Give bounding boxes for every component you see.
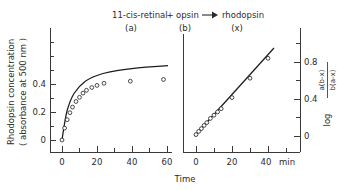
right-y-axis-title: log a(b-x) b(a-x) xyxy=(318,62,337,126)
left-y-tick-label-0: 0 xyxy=(41,135,46,145)
right-x-major-ticks xyxy=(196,146,268,152)
chart-svg: 11-cis-retinal + opsin rhodopsin (a) (b)… xyxy=(0,0,338,190)
equation-plus-sign: + xyxy=(166,10,173,20)
left-x-tick-label-60: 60 xyxy=(162,157,173,167)
left-x-tick-label-20: 20 xyxy=(92,157,103,167)
equation-label-a: (a) xyxy=(125,23,137,33)
left-y-tick-label-04: 0.4 xyxy=(32,79,46,89)
right-x-axis-unit: min xyxy=(279,157,295,167)
left-y-tick-label-02: 0.2 xyxy=(32,107,46,117)
left-x-tick-label-40: 40 xyxy=(127,157,138,167)
left-panel-markers xyxy=(60,78,165,142)
right-y-axis-fraction-denominator: b(a-x) xyxy=(329,69,337,90)
right-y-major-ticks xyxy=(294,62,300,136)
left-y-major-ticks xyxy=(50,84,56,140)
right-y-tick-label-04: 0.4 xyxy=(304,94,318,104)
right-x-tick-label-40: 40 xyxy=(261,157,272,167)
equation-label-b: (b) xyxy=(179,23,191,33)
figure-container: 11-cis-retinal + opsin rhodopsin (a) (b)… xyxy=(0,0,338,190)
right-y-tick-label-0: 0 xyxy=(304,131,309,141)
equation-product: rhodopsin xyxy=(222,10,264,20)
equation-reactant-b: opsin xyxy=(176,10,199,20)
right-x-tick-label-20: 20 xyxy=(227,157,238,167)
equation-reactant-a: 11-cis-retinal xyxy=(112,10,168,20)
equation-label-x: (x) xyxy=(231,23,243,33)
left-x-minor-ticks xyxy=(80,148,150,152)
left-y-axis-title-line1: Rhodopsin concentration xyxy=(6,39,16,145)
right-y-tick-label-08: 0.8 xyxy=(304,57,318,67)
x-axis-title: Time xyxy=(174,174,196,184)
left-panel-curve xyxy=(62,66,168,140)
right-y-minor-ticks xyxy=(296,44,300,118)
left-x-tick-label-0: 0 xyxy=(59,157,64,167)
right-panel-markers xyxy=(194,56,270,136)
right-x-minor-ticks xyxy=(214,148,286,152)
right-y-axis-fraction-numerator: a(b-x) xyxy=(318,69,326,90)
right-y-axis-title-log: log xyxy=(322,114,332,127)
arrow-right-icon xyxy=(202,12,218,19)
right-x-tick-label-0: 0 xyxy=(193,157,198,167)
left-y-axis-title-line2: ( absorbance at 500 nm ) xyxy=(18,38,28,146)
